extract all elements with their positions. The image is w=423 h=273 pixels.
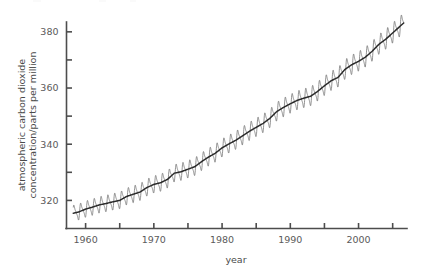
x-tick-label: 2000 — [346, 234, 370, 245]
x-axis-title: year — [225, 254, 246, 265]
y-axis-title-line2: concentration/parts per million — [27, 52, 38, 199]
axes-group — [66, 22, 407, 229]
trend-co2-line — [73, 23, 403, 213]
x-axis-tick-labels: 19601970198019902000 — [74, 234, 371, 245]
y-tick-label: 360 — [40, 82, 58, 93]
crop-artifact-row — [33, 0, 136, 2]
y-tick-label: 320 — [40, 195, 58, 206]
chart-canvas: 320340360380 19601970198019902000 year a… — [0, 0, 423, 273]
y-axis-title-line1: atmospheric carbon dioxide — [16, 59, 27, 192]
x-tick-label: 1970 — [142, 234, 166, 245]
x-tick-label: 1980 — [210, 234, 234, 245]
y-tick-label: 340 — [40, 139, 58, 150]
x-tick-label: 1960 — [74, 234, 98, 245]
seasonal-co2-line — [73, 15, 403, 220]
x-axis-ticks — [86, 223, 393, 229]
y-axis-tick-labels: 320340360380 — [40, 26, 58, 206]
y-axis-ticks — [67, 32, 73, 201]
data-series-group — [73, 15, 403, 220]
co2-chart-figure: 320340360380 19601970198019902000 year a… — [0, 0, 423, 273]
y-tick-label: 380 — [40, 26, 58, 37]
x-tick-label: 1990 — [278, 234, 302, 245]
